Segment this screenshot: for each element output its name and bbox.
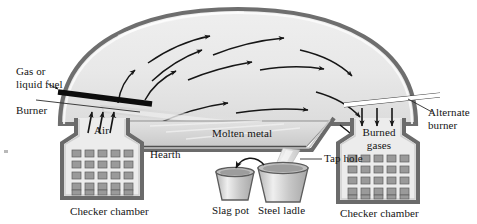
label-hearth: Hearth	[150, 148, 181, 161]
label-alternate-burner-line1: Alternate	[428, 106, 470, 119]
label-tap-hole: Tap hole	[324, 152, 363, 165]
label-burner: Burner	[16, 104, 47, 117]
label-air: Air	[94, 124, 109, 137]
slag-pot	[216, 167, 254, 200]
open-hearth-furnace-diagram: Gas or liquid fuel Burner Air Hearth Mol…	[0, 0, 477, 224]
left-checker-brick-grid	[72, 150, 133, 195]
label-checker-chamber-left: Checker chamber	[70, 205, 149, 218]
registration-mark	[4, 150, 8, 153]
label-burned-gases-line2: gases	[355, 139, 403, 152]
label-checker-chamber-right: Checker chamber	[340, 207, 419, 220]
label-alternate-burner-line2: burner	[428, 119, 470, 132]
label-slag-pot: Slag pot	[212, 204, 249, 217]
label-alternate-burner: Alternate burner	[428, 106, 470, 132]
label-gas-or-liquid-fuel-line2: liquid fuel	[16, 78, 63, 91]
label-gas-or-liquid-fuel: Gas or liquid fuel	[16, 65, 63, 91]
label-molten-metal: Molten metal	[212, 127, 272, 140]
steel-ladle-interior	[263, 165, 303, 173]
furnace-illustration	[0, 0, 477, 224]
label-burned-gases: Burned gases	[355, 126, 403, 152]
label-gas-or-liquid-fuel-line1: Gas or	[16, 65, 63, 78]
label-steel-ladle: Steel ladle	[258, 204, 305, 217]
label-burned-gases-line1: Burned	[355, 126, 403, 139]
slag-pot-interior	[220, 169, 250, 175]
steel-ladle	[258, 162, 308, 202]
